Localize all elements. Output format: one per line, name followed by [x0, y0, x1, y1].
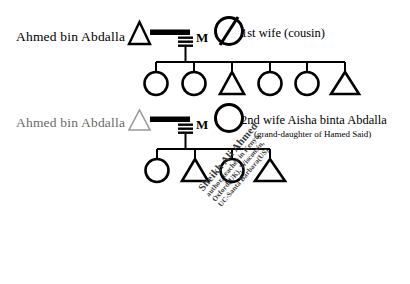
- family1-marriage-tick-2: [178, 41, 193, 43]
- family2-father-triangle: [129, 110, 150, 130]
- family1-wife-label: 1st wife (cousin): [241, 27, 325, 40]
- family2-marriage-marker: M: [196, 118, 208, 131]
- family2-wife-label: 2nd wife Aisha binta Abdalla: [241, 114, 387, 127]
- family1-child-6-triangle: [331, 72, 359, 94]
- family1-child-4-circle: [259, 72, 282, 95]
- family2-marriage-tick-2: [178, 128, 193, 130]
- family2-father-label: Ahmed bin Abdalla: [16, 116, 125, 130]
- family1-child-3-triangle: [220, 72, 244, 94]
- family1-marriage-tick-3: [178, 45, 193, 47]
- family2-marriage-tick-3: [178, 132, 193, 134]
- family1-marriage-bar: [150, 30, 190, 36]
- family2-marriage-bar: [150, 117, 190, 123]
- family2-child-1-circle: [146, 159, 169, 182]
- kinship-diagram: Ahmed bin Abdalla M 1st wife (cousin) Ah…: [0, 0, 410, 284]
- family2-marriage-tick-1: [178, 124, 193, 126]
- family2-wife-circle: [216, 105, 243, 132]
- family1-child-5-circle: [296, 72, 319, 95]
- family1-marriage-tick-1: [178, 37, 193, 39]
- family1-marriage-marker: M: [196, 31, 208, 44]
- family1-child-2-circle: [183, 72, 206, 95]
- family1-father-triangle: [129, 22, 150, 44]
- family1-wife-slash-icon: [220, 17, 238, 45]
- family1-child-1-circle: [145, 72, 168, 95]
- family1-father-label: Ahmed bin Abdalla: [16, 30, 125, 44]
